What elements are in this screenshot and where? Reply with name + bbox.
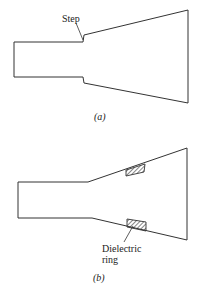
dielectric-ring-bottom — [127, 219, 146, 231]
caption-b: (b) — [93, 272, 105, 283]
horn-diagrams — [0, 0, 200, 284]
caption-a: (a) — [94, 111, 106, 122]
dielectric-horn-outline — [18, 148, 187, 240]
dielectric-leader-line — [124, 226, 133, 242]
step-leader-line — [76, 23, 83, 40]
dielectric-label: Dielectric — [102, 243, 141, 254]
step-label: Step — [62, 13, 80, 24]
stepped-horn-outline — [14, 10, 188, 103]
ring-label: ring — [102, 254, 118, 265]
